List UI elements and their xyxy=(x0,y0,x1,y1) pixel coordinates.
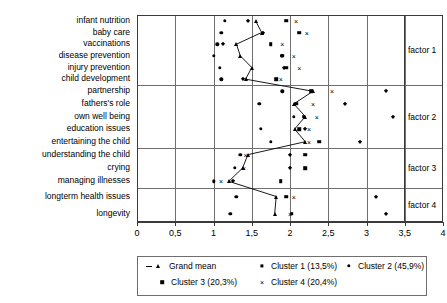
x-axis-tick-label: 0 xyxy=(134,228,139,238)
x-axis-tick-label: 0,5 xyxy=(169,228,182,238)
x-axis-tick xyxy=(252,222,253,226)
category-label: disease prevention xyxy=(59,51,130,60)
factor-column-divider xyxy=(404,15,405,222)
legend-label: Cluster 2 (45,9%) xyxy=(358,261,424,271)
legend-item: Cluster 3 (20,3%) xyxy=(156,277,237,287)
square-icon xyxy=(156,278,168,286)
factor-label: factor 1 xyxy=(408,45,436,55)
grand-mean-polyline xyxy=(229,21,313,214)
legend-label: Cluster 3 (20,3%) xyxy=(171,277,237,287)
x-axis-tick-label: 4 xyxy=(440,228,445,238)
diamond-icon xyxy=(256,262,268,270)
category-label: baby care xyxy=(93,28,130,37)
x-axis-tick xyxy=(328,222,329,226)
x-axis-tick xyxy=(175,222,176,226)
category-label: education issues xyxy=(67,124,130,133)
x-axis-tick xyxy=(367,222,368,226)
chart-page: infant nutritionbaby carevaccinationsdis… xyxy=(0,0,447,303)
x-axis-tick xyxy=(405,222,406,226)
x-axis-tick xyxy=(443,222,444,226)
legend-item: Cluster 1 (13,5%) xyxy=(256,261,337,271)
legend-item: Cluster 2 (45,9%) xyxy=(343,261,424,271)
category-label: child development xyxy=(61,74,130,83)
x-axis-tick xyxy=(290,222,291,226)
factor-label: factor 4 xyxy=(408,200,436,210)
category-label: partnership xyxy=(87,86,130,95)
legend-row: Cluster 3 (20,3%)×Cluster 4 (20,4%) xyxy=(138,277,426,293)
legend: Grand meanCluster 1 (13,5%)Cluster 2 (45… xyxy=(137,256,427,296)
factor-label: factor 2 xyxy=(408,112,436,122)
x-axis-tick-label: 3 xyxy=(364,228,369,238)
legend-item: ×Cluster 4 (20,4%) xyxy=(256,277,337,287)
category-label: crying xyxy=(107,163,130,172)
x-axis-tick-label: 2,5 xyxy=(322,228,335,238)
x-axis-tick-label: 3,5 xyxy=(398,228,411,238)
dash-triangle-icon xyxy=(146,262,166,270)
category-label: fathers's role xyxy=(82,99,130,108)
cross-icon: × xyxy=(256,278,268,286)
category-label: vaccinations xyxy=(83,39,130,48)
circle-icon xyxy=(343,262,355,270)
x-axis-tick-label: 2 xyxy=(287,228,292,238)
legend-label: Cluster 4 (20,4%) xyxy=(271,277,337,287)
legend-row: Grand meanCluster 1 (13,5%)Cluster 2 (45… xyxy=(138,261,426,277)
legend-item: Grand mean xyxy=(146,261,216,271)
x-axis-tick-label: 1 xyxy=(211,228,216,238)
category-label: infant nutrition xyxy=(77,16,130,25)
legend-label: Grand mean xyxy=(169,261,216,271)
x-axis-tick-label: 1,5 xyxy=(245,228,258,238)
category-label: managing illnesses xyxy=(58,176,130,185)
category-axis-labels: infant nutritionbaby carevaccinationsdis… xyxy=(0,0,134,230)
category-label: injury prevention xyxy=(68,63,130,72)
legend-label: Cluster 1 (13,5%) xyxy=(271,261,337,271)
category-label: entertaining the child xyxy=(52,137,130,146)
category-label: longterm health issues xyxy=(45,192,130,201)
category-label: own well being xyxy=(74,112,130,121)
x-axis-tick xyxy=(214,222,215,226)
factor-label: factor 3 xyxy=(408,163,436,173)
x-axis-tick xyxy=(137,222,138,226)
category-label: understanding the child xyxy=(42,150,130,159)
category-label: longevity xyxy=(96,209,130,218)
grand-mean-line xyxy=(137,15,443,222)
